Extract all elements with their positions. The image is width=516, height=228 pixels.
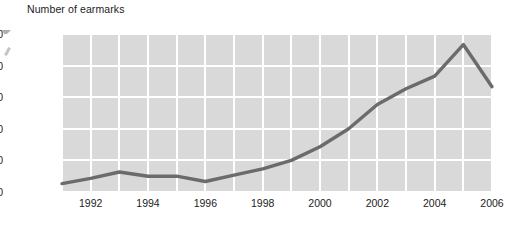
x-axis-tick-label: 1994 — [136, 197, 159, 209]
earmarks-line-chart: Number of earmarks 03,0006,0009,00012,00… — [0, 0, 516, 228]
series-polyline — [62, 45, 492, 184]
x-axis-tick-label: 2000 — [308, 197, 331, 209]
x-axis-tick-label: 2006 — [480, 197, 503, 209]
plot-area — [62, 34, 492, 192]
x-axis-tick-label: 1996 — [194, 197, 217, 209]
x-axis-tick-label: 2002 — [366, 197, 389, 209]
x-axis-tick-label: 2004 — [423, 197, 446, 209]
x-axis-tick-label: 1992 — [79, 197, 102, 209]
x-axis-tick-label: 1998 — [251, 197, 274, 209]
data-series-line — [62, 34, 492, 192]
